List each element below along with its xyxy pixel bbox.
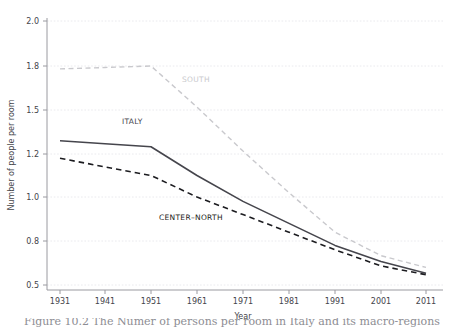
x-tick-label: 1981 bbox=[279, 297, 299, 306]
series-label-south: SOUTH bbox=[182, 75, 210, 84]
plot-background bbox=[0, 0, 449, 332]
y-tick-label: 1.8 bbox=[26, 62, 39, 71]
x-tick-label: 2001 bbox=[371, 297, 391, 306]
y-tick-label: 1.0 bbox=[26, 193, 39, 202]
series-label-center-north: CENTER–NORTH bbox=[159, 213, 223, 222]
y-tick-label: 2.0 bbox=[26, 17, 39, 26]
figure-container: 2.0 1.8 1.5 1.2 1.0 0.8 0.5 1931 1941 19… bbox=[0, 0, 449, 332]
x-tick-label: 1971 bbox=[233, 297, 253, 306]
x-tick-label: 1941 bbox=[95, 297, 115, 306]
x-tick-label: 1961 bbox=[187, 297, 207, 306]
figure-caption-strip: Figure 10.2 The Numer of persons per roo… bbox=[0, 318, 449, 332]
y-axis-title: Number of people per room bbox=[7, 99, 16, 210]
y-tick-label: 1.5 bbox=[26, 106, 39, 115]
y-tick-label: 1.2 bbox=[26, 150, 39, 159]
figure-caption: Figure 10.2 The Numer of persons per roo… bbox=[24, 318, 440, 328]
x-tick-label: 1951 bbox=[141, 297, 161, 306]
x-axis-tick-labels: 1931 1941 1951 1961 1971 1981 1991 2001 … bbox=[50, 297, 436, 306]
x-tick-label: 1991 bbox=[325, 297, 345, 306]
y-tick-label: 0.8 bbox=[26, 237, 39, 246]
x-tick-label: 1931 bbox=[50, 297, 70, 306]
y-tick-label: 0.5 bbox=[26, 281, 39, 290]
line-chart: 2.0 1.8 1.5 1.2 1.0 0.8 0.5 1931 1941 19… bbox=[0, 0, 449, 332]
series-label-italy: ITALY bbox=[122, 117, 143, 126]
x-tick-label: 2011 bbox=[416, 297, 436, 306]
